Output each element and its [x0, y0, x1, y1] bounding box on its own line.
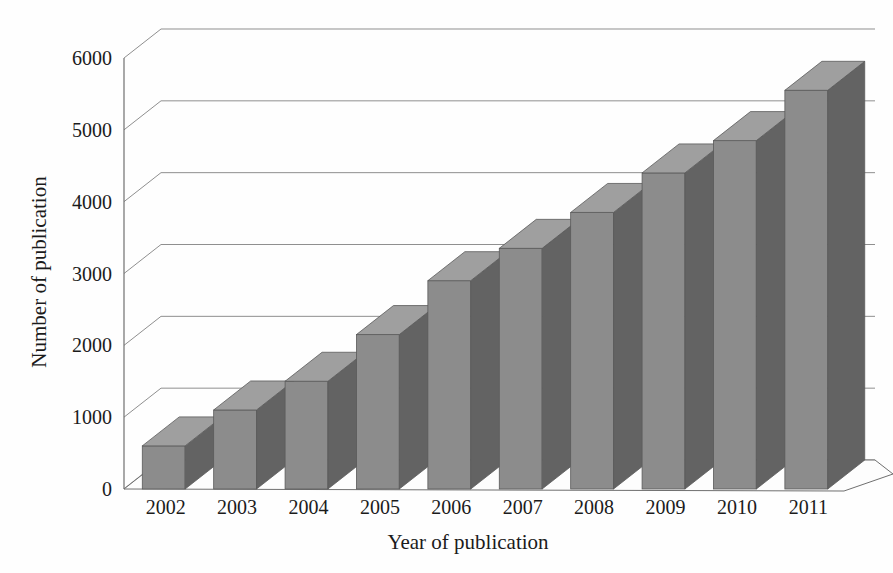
y-tick-label: 1000: [72, 406, 112, 428]
x-tick-label: 2007: [503, 496, 543, 518]
chart-canvas: 0100020003000400050006000 20022003200420…: [0, 0, 893, 573]
x-tick-label: 2010: [717, 496, 757, 518]
y-tick-label: 3000: [72, 263, 112, 285]
bar-2008: [571, 183, 651, 489]
x-axis-title: Year of publication: [387, 530, 549, 554]
bar-2009: [642, 144, 722, 489]
bar-2011: [785, 61, 865, 489]
bar-2006: [428, 252, 508, 489]
y-tick-label: 4000: [72, 191, 112, 213]
bar-side-face: [828, 61, 865, 489]
bar-2010: [713, 112, 793, 489]
y-tick-label: 0: [102, 478, 112, 500]
bar-front-face: [571, 212, 614, 489]
bar-front-face: [285, 381, 328, 489]
x-tick-label: 2006: [431, 496, 471, 518]
bar-front-face: [428, 281, 471, 489]
bar-front-face: [142, 446, 185, 489]
x-tick-label: 2011: [789, 496, 828, 518]
y-axis-title: Number of publication: [27, 176, 51, 368]
x-tick-label: 2002: [146, 496, 186, 518]
y-tick-label: 2000: [72, 334, 112, 356]
x-tick-label: 2005: [360, 496, 400, 518]
x-tick-label: 2003: [217, 496, 257, 518]
bar-chart: 0100020003000400050006000 20022003200420…: [0, 0, 893, 573]
x-tick-label: 2004: [289, 496, 329, 518]
bar-2007: [499, 219, 579, 489]
bar-front-face: [785, 90, 828, 489]
x-tick-label: 2009: [646, 496, 686, 518]
x-tick-label: 2008: [574, 496, 614, 518]
bar-front-face: [713, 141, 756, 489]
bar-front-face: [356, 335, 399, 489]
y-tick-label: 6000: [72, 47, 112, 69]
bar-front-face: [499, 248, 542, 489]
bar-front-face: [642, 173, 685, 489]
bar-2004: [285, 352, 365, 489]
bar-front-face: [214, 410, 257, 489]
bar-2005: [356, 306, 436, 489]
y-tick-label: 5000: [72, 119, 112, 141]
